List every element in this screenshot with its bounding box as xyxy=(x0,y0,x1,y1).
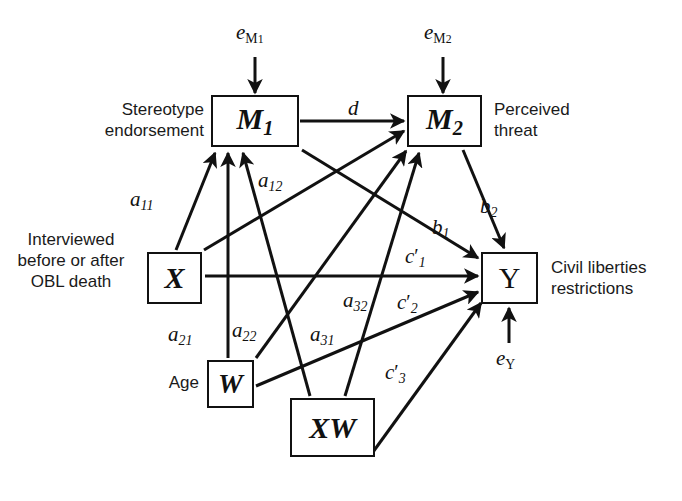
node-label-X: X xyxy=(164,263,184,293)
arrow-X-to-M1-a11 xyxy=(176,153,215,250)
node-box-Y[interactable]: Y xyxy=(481,252,538,304)
desc-label-civil-liberties-restrictions: Civil liberties restrictions xyxy=(551,257,681,299)
disturbance-label-eY: eY xyxy=(496,348,515,372)
path-label-a12: a12 xyxy=(258,170,282,194)
path-label-b2: b2 xyxy=(480,196,497,220)
path-label-a31: a31 xyxy=(310,324,334,348)
path-label-c2-prime: c′2 xyxy=(397,292,418,316)
arrow-X-to-M2-a12 xyxy=(204,131,404,250)
disturbance-label-eM2: eM2 xyxy=(424,22,452,46)
node-box-XW[interactable]: XW xyxy=(290,398,375,457)
disturbance-label-eM1: eM1 xyxy=(236,22,264,46)
node-box-W[interactable]: W xyxy=(207,360,254,408)
node-box-M1[interactable]: M1 xyxy=(211,95,299,147)
path-label-a11: a11 xyxy=(130,189,153,213)
node-label-XW: XW xyxy=(309,413,356,443)
desc-label-age: Age xyxy=(125,372,199,393)
node-box-M2[interactable]: M2 xyxy=(407,95,482,147)
path-label-c1-prime: c′1 xyxy=(405,246,426,270)
desc-label-perceived-threat: Perceived threat xyxy=(494,99,644,141)
node-label-Y: Y xyxy=(499,263,521,293)
path-label-a21: a21 xyxy=(168,324,192,348)
path-diagram: M1 M2 X Y W XW Stereotype endorsement Pe… xyxy=(0,0,682,501)
node-box-X[interactable]: X xyxy=(147,252,202,304)
path-label-a22: a22 xyxy=(232,320,256,344)
node-label-W: W xyxy=(218,370,243,398)
path-label-b1: b1 xyxy=(432,217,449,241)
arrow-M1-to-Y-b1 xyxy=(302,150,478,258)
node-label-M1: M1 xyxy=(237,104,274,138)
node-label-M2: M2 xyxy=(426,104,463,138)
path-label-d: d xyxy=(348,98,359,119)
path-label-a32: a32 xyxy=(343,290,367,314)
path-label-c3-prime: c′3 xyxy=(385,362,406,386)
desc-label-interviewed-obl-death: Interviewed before or after OBL death xyxy=(0,229,142,292)
desc-label-stereotype-endorsement: Stereotype endorsement xyxy=(62,99,204,141)
